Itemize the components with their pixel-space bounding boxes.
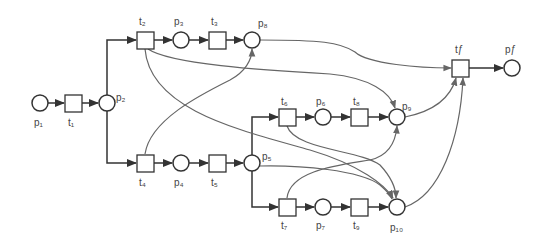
- label-t8: t₈: [353, 96, 360, 107]
- label-p6: p₆: [316, 96, 326, 107]
- label-t9: t₉: [353, 220, 360, 231]
- label-p9: p₉: [402, 101, 412, 112]
- transition-t1: [65, 95, 82, 112]
- label-p3: p₃: [174, 16, 184, 27]
- transition-t6: [279, 109, 296, 126]
- transition-t7: [279, 199, 296, 216]
- label-t6: t₆: [281, 96, 288, 107]
- transition-t4: [137, 155, 154, 172]
- place-p4: [173, 155, 189, 171]
- label-tf: tƒ: [455, 44, 463, 55]
- place-p1: [32, 95, 48, 111]
- label-p8: p₈: [258, 18, 268, 29]
- transition-tf: [452, 60, 469, 77]
- label-p1: p₁: [34, 117, 44, 128]
- place-p2: [99, 95, 115, 111]
- label-t5: t₅: [211, 177, 218, 188]
- place-p8: [244, 32, 260, 48]
- place-p7: [315, 199, 331, 215]
- label-t7: t₇: [281, 220, 288, 231]
- place-p6: [315, 109, 331, 125]
- place-pf: [504, 60, 520, 76]
- transition-t5: [209, 155, 226, 172]
- label-t3: t₃: [211, 16, 218, 27]
- transition-t9: [351, 199, 368, 216]
- label-p5: p₅: [262, 151, 272, 162]
- label-t2: t₂: [139, 16, 146, 27]
- place-p3: [173, 32, 189, 48]
- places: [32, 32, 520, 215]
- label-pf: pƒ: [505, 44, 516, 55]
- place-p5: [244, 155, 260, 171]
- transition-t8: [351, 109, 368, 126]
- petri-net-diagram: p₁ t₁ p₂ t₂ p₃ t₃ p₈ t₄ p₄ t₅ p₅ t₆ p₆ t…: [0, 0, 538, 244]
- cross-arcs: [145, 40, 463, 207]
- label-t1: t₁: [68, 117, 75, 128]
- transitions: [65, 32, 469, 216]
- label-p2: p₂: [116, 92, 126, 103]
- label-p4: p₄: [174, 177, 184, 188]
- label-t4: t₄: [139, 177, 146, 188]
- transition-t2: [137, 32, 154, 49]
- label-p10: p₁₀: [390, 222, 403, 233]
- place-p10: [389, 199, 405, 215]
- transition-t3: [209, 32, 226, 49]
- label-p7: p₇: [316, 220, 326, 231]
